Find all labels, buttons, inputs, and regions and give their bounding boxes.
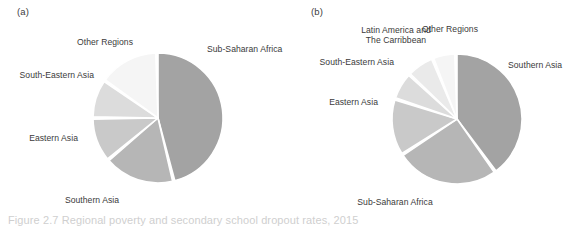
- pie-chart-b: [0, 0, 585, 226]
- figure-container: (a) Other Regions South-Eastern Asia Eas…: [0, 0, 585, 226]
- pie-b-label-southern-asia: Southern Asia: [508, 60, 582, 71]
- pie-b-label-other-regions: Other Regions: [400, 24, 478, 35]
- figure-caption: Figure 2.7 Regional poverty and secondar…: [8, 214, 583, 226]
- pie-b-label-eastern-asia: Eastern Asia: [300, 97, 378, 108]
- pie-b-label-south-eastern-asia: South-Eastern Asia: [300, 57, 394, 68]
- pie-b-label-latin-america-line2: The Carribbean: [340, 35, 452, 46]
- pie-b-label-sub-saharan-africa: Sub-Saharan Africa: [340, 197, 450, 208]
